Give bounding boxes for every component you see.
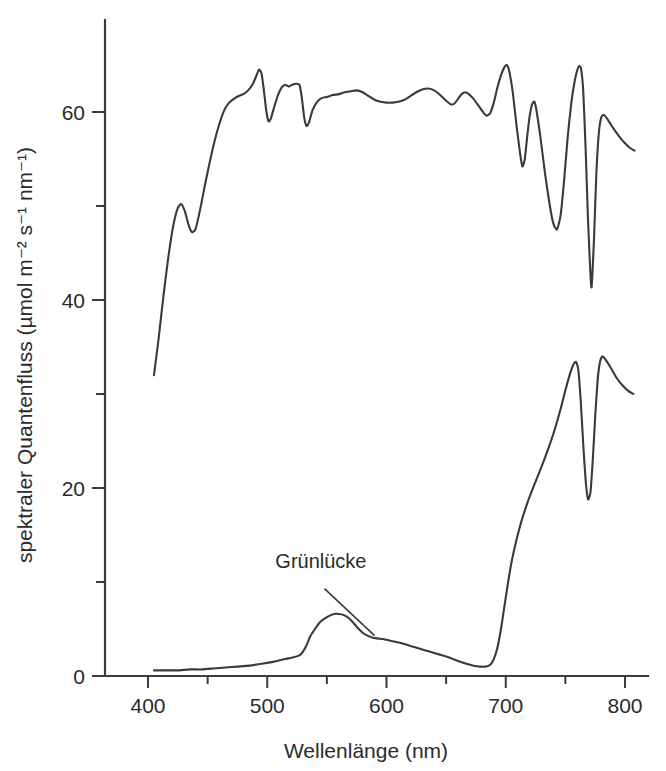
y-tick-label-0: 0 xyxy=(73,665,85,688)
chart-figure: 0204060400500600700800 Grünlücke Wellenl… xyxy=(0,0,666,771)
x-axis-title: Wellenlänge (nm) xyxy=(284,739,448,762)
y-tick-label-20: 20 xyxy=(62,477,85,500)
x-tick-label-700: 700 xyxy=(488,694,523,717)
y-axis-title: spektraler Quantenfluss (µmol m⁻² s⁻¹ nm… xyxy=(13,147,36,563)
y-tick-label-60: 60 xyxy=(62,101,85,124)
x-tick-label-500: 500 xyxy=(250,694,285,717)
y-tick-label-40: 40 xyxy=(62,289,85,312)
spectral-quantum-flux-chart: 0204060400500600700800 Grünlücke Wellenl… xyxy=(0,0,666,771)
annotation-label-gruenluecke: Grünlücke xyxy=(275,550,366,572)
x-tick-label-600: 600 xyxy=(369,694,404,717)
x-tick-label-400: 400 xyxy=(130,694,165,717)
x-tick-label-800: 800 xyxy=(607,694,642,717)
